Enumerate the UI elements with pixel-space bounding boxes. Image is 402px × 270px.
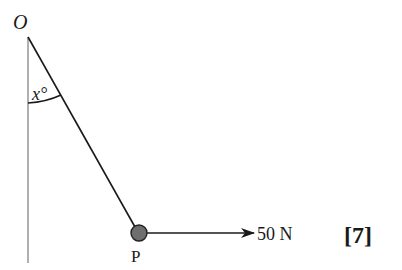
marks-label: [7] — [344, 222, 372, 248]
particle-p — [131, 225, 147, 241]
force-label: 50 N — [257, 224, 293, 244]
particle-label: P — [131, 247, 140, 266]
string-line — [28, 37, 135, 227]
angle-label: x° — [31, 84, 47, 104]
pendulum-diagram: O x° P 50 N [7] — [0, 0, 402, 270]
pivot-label: O — [13, 11, 27, 33]
